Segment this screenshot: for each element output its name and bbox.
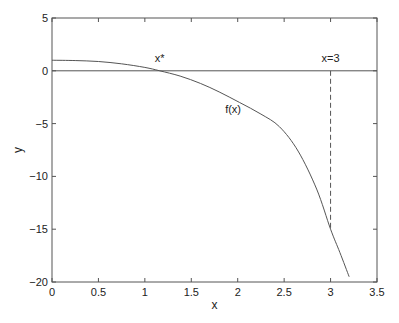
x-axis-label: x xyxy=(212,298,218,312)
annotation: x=3 xyxy=(322,52,340,64)
x-tick-label: 3.5 xyxy=(369,286,384,298)
chart: 00.511.522.533.5−20−15−10−505 x*x=3f(x) … xyxy=(0,0,399,323)
annotations: x*x=3f(x) xyxy=(155,52,340,115)
annotation: x* xyxy=(155,52,166,64)
y-tick-label: −20 xyxy=(29,276,48,288)
x-tick-label: 0.5 xyxy=(91,286,106,298)
y-tick-label: −15 xyxy=(29,223,48,235)
x-tick-label: 0 xyxy=(49,286,55,298)
y-tick-label: 5 xyxy=(42,12,48,24)
y-axis-label: y xyxy=(11,147,25,153)
x-tick-label: 2 xyxy=(235,286,241,298)
y-tick-label: 0 xyxy=(42,65,48,77)
y-tick-label: −5 xyxy=(35,118,48,130)
series-f-x- xyxy=(52,60,349,276)
annotation: f(x) xyxy=(225,103,241,115)
curves xyxy=(52,60,377,276)
x-tick-label: 2.5 xyxy=(276,286,291,298)
y-tick-label: −10 xyxy=(29,170,48,182)
x-tick-label: 1 xyxy=(142,286,148,298)
x-tick-label: 1.5 xyxy=(184,286,199,298)
x-tick-label: 3 xyxy=(328,286,334,298)
